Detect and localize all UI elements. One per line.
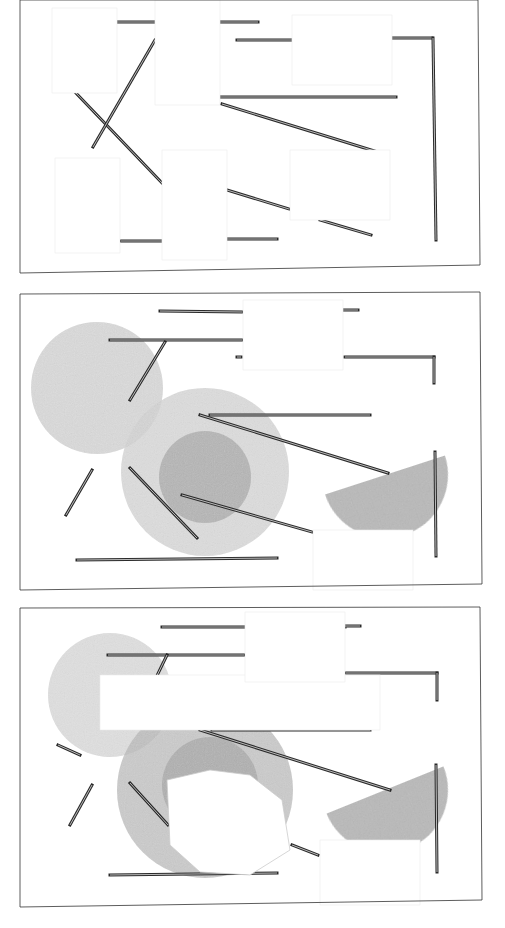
paper-patch bbox=[243, 300, 343, 370]
paper-patch bbox=[155, 0, 220, 105]
rod-highlight bbox=[66, 470, 92, 515]
paper-patch bbox=[55, 158, 120, 253]
panel-1-lines bbox=[20, 0, 480, 273]
panel-2-circles bbox=[20, 292, 482, 590]
paper-patch bbox=[52, 8, 117, 93]
paper-patch bbox=[100, 675, 380, 730]
rod-highlight bbox=[70, 785, 92, 825]
artwork-canvas bbox=[0, 0, 505, 928]
rod-highlight bbox=[292, 845, 318, 855]
panel-3-torn bbox=[20, 607, 482, 907]
paper-patch bbox=[292, 15, 392, 85]
rod-highlight bbox=[227, 190, 289, 209]
paper-patch bbox=[162, 150, 227, 260]
paper-patch bbox=[245, 612, 345, 682]
artwork-layers bbox=[20, 0, 482, 907]
paper-patch bbox=[313, 530, 413, 590]
rod-highlight bbox=[222, 104, 381, 153]
rod-highlight bbox=[320, 220, 371, 235]
paper-patch bbox=[320, 840, 420, 905]
paper-patch bbox=[290, 150, 390, 220]
